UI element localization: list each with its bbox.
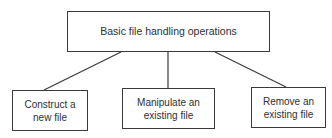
connector-root-to-remove (215, 52, 286, 87)
child-node-label: Remove an existing file (263, 95, 314, 121)
child-node-label: Manipulate an existing file (137, 96, 200, 122)
root-node-label: Basic file handling operations (100, 25, 237, 38)
child-node-manipulate-existing-file: Manipulate an existing file (122, 88, 215, 129)
connector-root-to-construct (44, 52, 121, 90)
child-node-construct-new-file: Construct a new file (12, 90, 88, 131)
diagram-canvas: Basic file handling operations Construct… (0, 0, 332, 138)
child-node-remove-existing-file: Remove an existing file (251, 87, 326, 128)
child-node-label: Construct a new file (24, 98, 75, 124)
root-node-basic-file-operations: Basic file handling operations (67, 11, 270, 52)
